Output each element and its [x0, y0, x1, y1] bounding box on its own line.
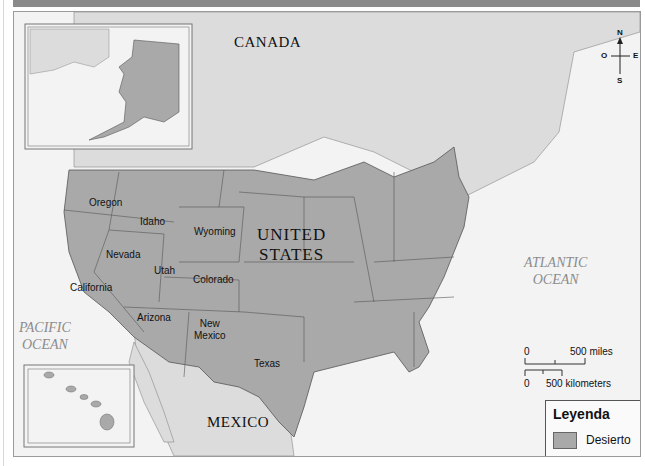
- compass-rose: N O E S: [600, 28, 640, 86]
- scale-bar: 0 500 miles 0 500 kilometers: [522, 346, 641, 396]
- compass-west: O: [601, 51, 607, 60]
- label-united-states: UNITED STATES: [257, 225, 326, 265]
- header-bar: [13, 0, 640, 7]
- label-idaho: Idaho: [140, 216, 165, 228]
- scale-km-zero: 0: [524, 378, 530, 389]
- label-utah: Utah: [154, 265, 175, 277]
- compass-east: E: [633, 51, 638, 60]
- scale-miles-zero: 0: [524, 346, 530, 357]
- legend-swatch-desierto: [553, 432, 577, 449]
- scale-miles-label: 500 miles: [570, 346, 613, 357]
- label-canada: CANADA: [234, 34, 301, 51]
- label-atlantic-ocean: ATLANTIC OCEAN: [524, 254, 587, 288]
- label-oregon: Oregon: [89, 197, 122, 209]
- map-frame: CANADA MEXICO UNITED STATES PACIFIC OCEA…: [13, 11, 641, 457]
- label-texas: Texas: [254, 358, 280, 370]
- label-pacific-ocean: PACIFIC OCEAN: [19, 319, 71, 353]
- legend-label-desierto: Desierto: [586, 433, 631, 447]
- compass-south: S: [617, 76, 622, 85]
- label-wyoming: Wyoming: [194, 226, 236, 238]
- label-california: California: [70, 282, 112, 294]
- legend-box: Leyenda Desierto: [545, 400, 641, 457]
- label-colorado: Colorado: [193, 274, 234, 286]
- label-mexico: MEXICO: [207, 414, 269, 431]
- page-margin-line: [3, 0, 4, 466]
- label-arizona: Arizona: [137, 312, 171, 324]
- legend-title: Leyenda: [553, 406, 610, 422]
- label-nevada: Nevada: [106, 249, 140, 261]
- label-new-mexico: New Mexico: [194, 318, 226, 342]
- scale-km-label: 500 kilometers: [546, 378, 611, 389]
